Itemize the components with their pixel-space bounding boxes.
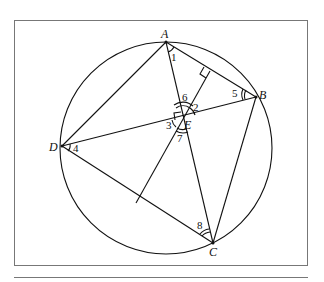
angle-label-3: 3 [166,119,172,131]
label-a: A [160,27,169,41]
side-cd [62,146,213,243]
angle-label-5: 5 [232,87,238,99]
angle-arc-6 [176,106,190,108]
label-b: B [259,88,267,102]
angle-arc-4 [68,144,70,151]
angle-label-7: 7 [177,132,183,144]
angle-label-2: 2 [193,101,199,113]
label-d: D [48,140,58,154]
angle-arc-5b [242,89,243,100]
angle-label-8: 8 [197,219,203,231]
angle-label-6: 6 [182,91,188,103]
geometry-diagram: A B C D E 1 2 3 4 5 6 7 8 [0,0,324,282]
label-e: E [183,118,192,132]
angle-arc-3 [172,120,176,127]
circumcircle [60,42,272,254]
angle-label-1: 1 [171,51,177,63]
right-angle-mark-ab [200,67,206,78]
angle-arc-5 [244,90,246,99]
diagonal-ac [166,42,213,243]
side-ab [166,42,256,97]
angle-arc-8 [202,232,210,236]
side-da [62,42,166,146]
side-bc [213,97,256,243]
label-c: C [209,245,218,259]
angle-label-4: 4 [73,142,79,154]
diagonal-bd [62,97,256,146]
